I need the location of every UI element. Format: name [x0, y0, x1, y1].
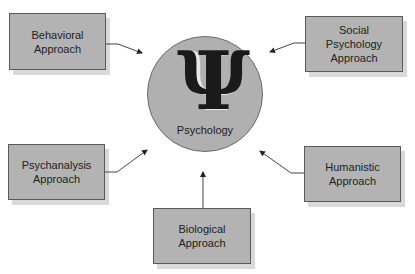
social-psychology-approach-box: Social Psychology Approach	[305, 16, 403, 72]
box-line: Approach	[178, 236, 225, 250]
arrow-social	[270, 43, 305, 52]
box-line: Psychanalysis	[22, 158, 92, 172]
biological-approach-box: Biological Approach	[153, 208, 251, 264]
arrow-humanistic	[260, 151, 304, 173]
psychanalysis-approach-box: Psychanalysis Approach	[8, 144, 105, 200]
box-line: Approach	[34, 42, 81, 56]
box-line: Humanistic	[325, 160, 379, 174]
arrow-behavioral	[105, 44, 142, 53]
psi-symbol-icon: Ψ	[177, 41, 233, 121]
box-line: Psychology	[326, 37, 382, 51]
box-line: Approach	[329, 174, 376, 188]
psychology-label: Psychology	[148, 124, 262, 136]
box-line: Biological	[178, 222, 225, 236]
box-line: Approach	[33, 172, 80, 186]
box-line: Approach	[330, 51, 377, 65]
box-line: Social	[339, 23, 369, 37]
psychology-circle: Ψ Ψ Psychology	[147, 36, 263, 152]
humanistic-approach-box: Humanistic Approach	[304, 146, 401, 202]
arrow-psychanalysis	[105, 150, 147, 172]
behavioral-approach-box: Behavioral Approach	[9, 13, 106, 70]
box-line: Behavioral	[32, 28, 84, 42]
